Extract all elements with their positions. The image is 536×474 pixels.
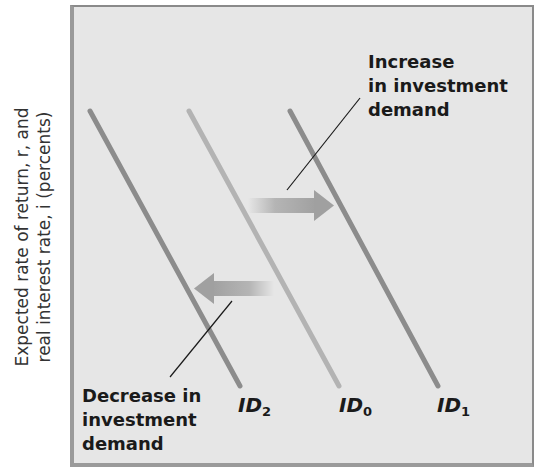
increase-line1: Increase (368, 50, 508, 74)
decrease-line1: Decrease in (82, 384, 201, 408)
increase-arrow-icon (248, 190, 334, 221)
decrease-line2: investment (82, 408, 201, 432)
decrease-annotation: Decrease in investment demand (82, 384, 201, 456)
id2-curve (90, 111, 240, 386)
id0-label-text: ID (339, 393, 363, 417)
id1-label-text: ID (437, 393, 461, 417)
id1-subscript: 1 (461, 404, 470, 419)
increase-line2: in investment (368, 74, 508, 98)
id0-subscript: 0 (363, 404, 372, 419)
decrease-line3: demand (82, 432, 201, 456)
increase-line3: demand (368, 98, 508, 122)
id1-label: ID1 (437, 393, 470, 419)
decrease-arrow-icon (194, 273, 274, 304)
id1-curve (290, 111, 438, 386)
id2-label: ID2 (238, 393, 271, 419)
id2-subscript: 2 (262, 404, 271, 419)
id0-label: ID0 (339, 393, 372, 419)
increase-annotation: Increase in investment demand (368, 50, 508, 122)
id2-label-text: ID (238, 393, 262, 417)
